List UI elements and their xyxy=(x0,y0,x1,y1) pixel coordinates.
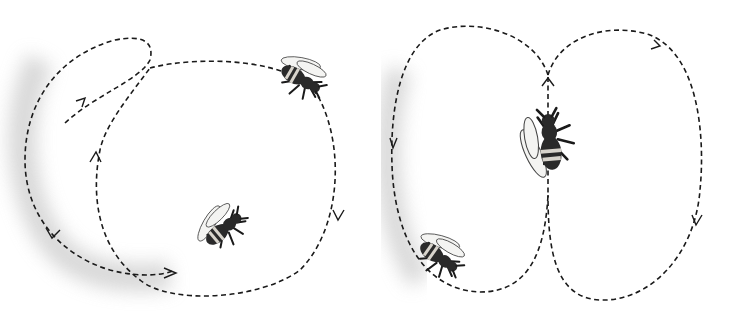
bee-icon xyxy=(185,193,255,262)
waggle-dance-panel xyxy=(388,26,702,300)
arrow-icon xyxy=(333,210,344,220)
bee-icon xyxy=(267,42,336,107)
arrow-icon xyxy=(651,40,660,49)
shadow xyxy=(23,60,170,277)
arrow-icon xyxy=(76,98,85,107)
bee-dance-illustration xyxy=(0,0,740,321)
bee-icon xyxy=(513,107,576,182)
waggle-dance-right-loop xyxy=(548,30,702,300)
round-dance-circle xyxy=(96,61,335,296)
arrow-icon xyxy=(692,215,702,225)
round-dance-panel xyxy=(23,38,344,296)
